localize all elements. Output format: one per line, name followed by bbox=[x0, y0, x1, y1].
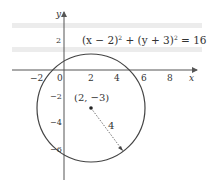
center-point bbox=[89, 106, 93, 110]
equation-label: (x − 2)2 + (y + 3)2 = 16 bbox=[82, 34, 207, 46]
y-tick-label: −2 bbox=[50, 92, 62, 101]
y-tick-label: 2 bbox=[56, 36, 61, 45]
y-tick-label: −4 bbox=[50, 118, 62, 127]
x-axis-label: x bbox=[189, 73, 194, 83]
x-tick-label: 8 bbox=[167, 73, 173, 83]
circle-graph: −2 0 2 4 6 8 x 2 −2 −4 −6 y (x − 2)2 + (… bbox=[0, 0, 207, 186]
x-tick-label: 2 bbox=[88, 73, 94, 83]
radius-line bbox=[91, 108, 123, 151]
radius-arrowhead bbox=[118, 146, 123, 151]
center-label: (2, −3) bbox=[74, 92, 109, 103]
y-tick-label: −6 bbox=[50, 145, 62, 154]
y-axis-label: y bbox=[55, 9, 62, 19]
x-tick-label: −2 bbox=[30, 73, 43, 83]
radius-label: 4 bbox=[108, 120, 114, 131]
x-tick-label: 0 bbox=[57, 73, 63, 83]
x-tick-label: 6 bbox=[141, 73, 147, 83]
x-tick-label: 4 bbox=[114, 73, 120, 83]
